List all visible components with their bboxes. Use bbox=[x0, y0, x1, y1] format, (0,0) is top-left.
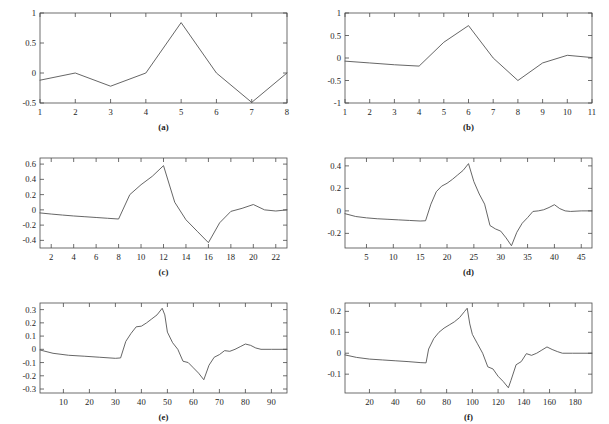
data-curve-b bbox=[345, 26, 592, 81]
y-tick-label: 0.2 bbox=[330, 306, 341, 316]
x-tick-label: 8 bbox=[285, 107, 289, 117]
y-tick-label: 0.4 bbox=[25, 174, 36, 184]
x-tick-label: 2 bbox=[49, 252, 53, 262]
x-tick-label: 6 bbox=[466, 107, 471, 117]
subplot-c: 246810121416182022-0.4-0.200.20.40.6(c) bbox=[8, 152, 293, 278]
y-tick-label: -0.5 bbox=[22, 98, 36, 108]
x-tick-label: 160 bbox=[543, 397, 556, 407]
x-tick-label: 22 bbox=[271, 252, 280, 262]
x-tick-label: 6 bbox=[94, 252, 99, 262]
x-tick-label: 25 bbox=[470, 252, 479, 262]
x-tick-label: 60 bbox=[417, 397, 426, 407]
y-tick-label: -0.1 bbox=[22, 358, 36, 368]
x-tick-label: 16 bbox=[204, 252, 213, 262]
y-tick-label: 0 bbox=[337, 206, 341, 216]
x-tick-label: 11 bbox=[588, 107, 596, 117]
y-tick-label: 0.2 bbox=[25, 318, 36, 328]
subplot-caption-a: (a) bbox=[158, 122, 168, 132]
x-tick-label: 4 bbox=[144, 107, 149, 117]
x-tick-label: 15 bbox=[416, 252, 425, 262]
x-tick-label: 8 bbox=[116, 252, 120, 262]
y-tick-label: 0.5 bbox=[25, 38, 36, 48]
x-tick-label: 40 bbox=[137, 397, 146, 407]
x-tick-label: 20 bbox=[443, 252, 452, 262]
y-tick-label: 0.1 bbox=[330, 327, 341, 337]
y-tick-label: 0 bbox=[337, 53, 341, 63]
x-tick-label: 50 bbox=[163, 397, 172, 407]
x-tick-label: 80 bbox=[241, 397, 250, 407]
x-tick-label: 60 bbox=[189, 397, 198, 407]
x-tick-label: 2 bbox=[368, 107, 372, 117]
x-tick-label: 70 bbox=[215, 397, 224, 407]
subplot-a: 12345678-0.500.51(a) bbox=[8, 7, 293, 133]
x-tick-label: 1 bbox=[343, 107, 347, 117]
y-tick-label: 0.5 bbox=[330, 31, 341, 41]
x-tick-label: 100 bbox=[466, 397, 479, 407]
plot-box-a bbox=[40, 13, 287, 103]
x-tick-label: 180 bbox=[569, 397, 582, 407]
x-tick-label: 30 bbox=[111, 397, 120, 407]
y-tick-label: 1 bbox=[337, 8, 341, 18]
x-tick-label: 30 bbox=[496, 252, 505, 262]
x-tick-label: 20 bbox=[249, 252, 258, 262]
subplot-d: 51015202530354045-0.200.20.4(d) bbox=[313, 152, 598, 278]
x-tick-label: 5 bbox=[364, 252, 368, 262]
x-tick-label: 120 bbox=[492, 397, 505, 407]
y-tick-label: 0 bbox=[32, 68, 36, 78]
x-tick-label: 7 bbox=[491, 107, 496, 117]
x-tick-label: 35 bbox=[523, 252, 532, 262]
y-tick-label: -0.5 bbox=[327, 76, 341, 86]
y-tick-label: -0.1 bbox=[327, 369, 341, 379]
y-tick-label: 0.1 bbox=[25, 331, 36, 341]
x-tick-label: 10 bbox=[563, 107, 572, 117]
subplot-figure: 12345678-0.500.51(a)1234567891011-1-0.50… bbox=[0, 0, 609, 424]
x-tick-label: 5 bbox=[442, 107, 446, 117]
x-tick-label: 10 bbox=[59, 397, 68, 407]
y-tick-label: -0.2 bbox=[327, 228, 341, 238]
subplot-caption-e: (e) bbox=[159, 412, 169, 422]
x-tick-label: 4 bbox=[417, 107, 422, 117]
subplot-caption-b: (b) bbox=[463, 122, 474, 132]
plot-box-d bbox=[345, 158, 592, 248]
subplot-b: 1234567891011-1-0.500.51(b) bbox=[313, 7, 598, 133]
x-tick-label: 5 bbox=[179, 107, 183, 117]
y-tick-label: 0 bbox=[32, 344, 36, 354]
data-curve-d bbox=[345, 164, 592, 246]
y-tick-label: 0.3 bbox=[25, 305, 36, 315]
y-tick-label: -0.2 bbox=[22, 220, 36, 230]
plot-box-b bbox=[345, 13, 592, 103]
y-tick-label: 0.4 bbox=[330, 161, 341, 171]
plot-box-c bbox=[40, 158, 287, 248]
plot-box-e bbox=[40, 303, 287, 393]
y-tick-label: 1 bbox=[32, 8, 36, 18]
y-tick-label: -0.2 bbox=[22, 371, 36, 381]
y-tick-label: 0 bbox=[32, 205, 36, 215]
y-tick-label: -1 bbox=[334, 98, 341, 108]
y-tick-label: 0.6 bbox=[25, 159, 36, 169]
y-tick-label: -0.4 bbox=[22, 235, 36, 245]
x-tick-label: 140 bbox=[517, 397, 530, 407]
x-tick-label: 10 bbox=[389, 252, 398, 262]
x-tick-label: 7 bbox=[250, 107, 255, 117]
x-tick-label: 20 bbox=[85, 397, 94, 407]
x-tick-label: 3 bbox=[392, 107, 396, 117]
x-tick-label: 14 bbox=[182, 252, 191, 262]
x-tick-label: 10 bbox=[137, 252, 146, 262]
x-tick-label: 2 bbox=[73, 107, 77, 117]
x-tick-label: 6 bbox=[214, 107, 219, 117]
x-tick-label: 90 bbox=[267, 397, 276, 407]
x-tick-label: 45 bbox=[577, 252, 586, 262]
data-curve-a bbox=[40, 23, 287, 103]
subplot-caption-f: (f) bbox=[464, 412, 473, 422]
x-tick-label: 80 bbox=[442, 397, 451, 407]
y-tick-label: 0.2 bbox=[330, 183, 341, 193]
x-tick-label: 40 bbox=[550, 252, 559, 262]
x-tick-label: 18 bbox=[227, 252, 236, 262]
x-tick-label: 20 bbox=[365, 397, 374, 407]
subplot-f: 20406080100120140160180-0.100.10.2(f) bbox=[313, 297, 598, 423]
y-tick-label: 0.2 bbox=[25, 190, 36, 200]
data-curve-c bbox=[40, 166, 287, 243]
x-tick-label: 9 bbox=[540, 107, 544, 117]
data-curve-f bbox=[345, 308, 592, 388]
y-tick-label: -0.3 bbox=[22, 384, 36, 394]
